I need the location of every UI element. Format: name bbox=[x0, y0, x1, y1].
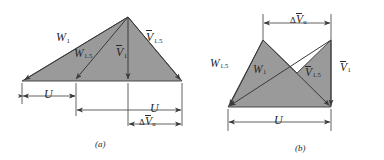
panel-a-caption: (a) bbox=[95, 139, 106, 149]
panel-a-label-W1: W1 bbox=[56, 31, 70, 44]
panel-a-label-V15: V1.5 bbox=[146, 31, 162, 44]
panel-a-label-U-right: U bbox=[150, 102, 159, 114]
panel-b-label-W1: W1 bbox=[253, 64, 266, 76]
panel-b-caption: (b) bbox=[295, 143, 306, 153]
panel-a-label-U-left: U bbox=[44, 88, 53, 100]
panel-a-label-V1: V1 bbox=[116, 46, 127, 59]
panel-b-label-V15: V1.5 bbox=[305, 67, 321, 79]
panel-b-label-delta-Vu: ΔVu bbox=[290, 14, 307, 26]
panel-b-label-V1: V1 bbox=[340, 62, 351, 74]
panel-b-label-U: U bbox=[274, 114, 283, 126]
panel-b-label-W15: W1.5 bbox=[210, 58, 228, 70]
figure-vector-graphics bbox=[0, 0, 384, 160]
panel-a-shaded-triangle bbox=[22, 17, 182, 81]
velocity-triangle-figure: W1 W1.5 V1 V1.5 U U ΔVu (a) ΔVu W1.5 W1 … bbox=[0, 0, 384, 160]
panel-a-label-W15: W1.5 bbox=[74, 48, 92, 60]
panel-a-label-delta-Vu: ΔVu bbox=[139, 116, 156, 128]
